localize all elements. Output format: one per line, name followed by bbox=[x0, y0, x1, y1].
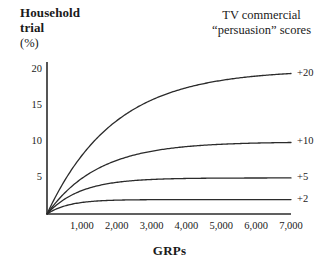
curve-label-plus10: +10 bbox=[297, 135, 313, 146]
y-tick-label-5: 5 bbox=[18, 171, 42, 182]
axes-group bbox=[47, 62, 291, 214]
x-axis-title-text: GRPs bbox=[153, 243, 186, 258]
chart-container: Household trial (%) TV commercial “persu… bbox=[0, 0, 323, 267]
curve-label-plus2: +2 bbox=[297, 193, 308, 204]
y-tick-label-15: 15 bbox=[18, 99, 42, 110]
curve-label-plus5: +5 bbox=[297, 171, 308, 182]
y-tick-label-10: 10 bbox=[18, 135, 42, 146]
curve-plus5 bbox=[47, 178, 291, 214]
curve-plus2 bbox=[47, 200, 291, 214]
curve-label-plus20: +20 bbox=[297, 67, 313, 78]
curves-group bbox=[47, 74, 291, 215]
x-tick-label-7000: 7,000 bbox=[269, 220, 313, 231]
x-axis-title: GRPs bbox=[0, 243, 323, 259]
y-tick-label-20: 20 bbox=[18, 63, 42, 74]
